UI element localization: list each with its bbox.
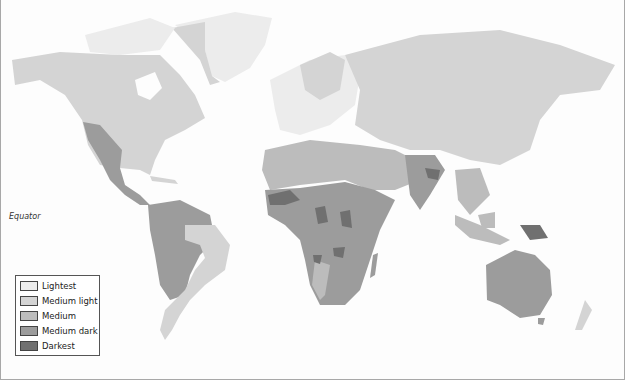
region-north-asia xyxy=(345,30,615,165)
legend-label: Darkest xyxy=(42,341,75,351)
legend-label: Medium dark xyxy=(42,326,98,336)
region-tasmania xyxy=(538,318,545,325)
legend-item-darkest: Darkest xyxy=(20,340,75,352)
legend-label: Medium xyxy=(42,311,76,321)
legend-swatch xyxy=(20,311,38,321)
region-new-guinea xyxy=(520,225,548,240)
region-caribbean xyxy=(150,176,178,184)
legend-swatch xyxy=(20,281,38,291)
region-southeast-asia xyxy=(455,168,490,215)
region-new-zealand xyxy=(575,300,592,330)
legend-swatch xyxy=(20,326,38,336)
legend-item-lightest: Lightest xyxy=(20,280,76,292)
legend-label: Lightest xyxy=(42,281,76,291)
region-australia xyxy=(486,250,552,318)
region-arctic-islands xyxy=(85,18,175,55)
region-north-africa xyxy=(262,140,420,190)
legend-item-medium: Medium xyxy=(20,310,76,322)
legend-swatch xyxy=(20,341,38,351)
legend-swatch xyxy=(20,296,38,306)
legend-label: Medium light xyxy=(42,296,98,306)
legend-item-medium-dark: Medium dark xyxy=(20,325,98,337)
equator-label: Equator xyxy=(9,212,40,221)
region-india xyxy=(405,155,445,210)
legend: Lightest Medium light Medium Medium dark… xyxy=(15,275,100,356)
legend-item-medium-light: Medium light xyxy=(20,295,98,307)
region-madagascar xyxy=(370,253,378,278)
